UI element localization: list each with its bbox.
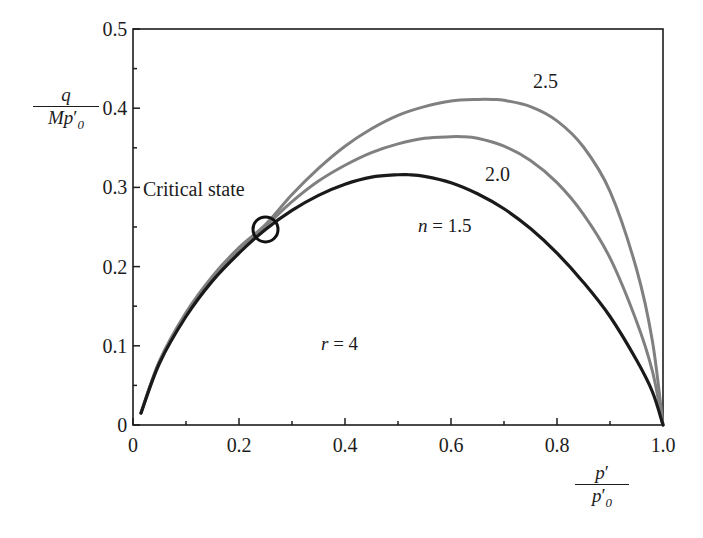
critical-state-label: Critical state	[143, 178, 245, 201]
axis-ticks	[133, 29, 663, 425]
y-axis-label: q Mp′0	[33, 85, 99, 131]
x-tick-label-1.0: 1.0	[651, 434, 675, 457]
x-tick-label-0: 0	[128, 434, 138, 457]
y-tick-label-0.3: 0.3	[85, 176, 127, 199]
y-tick-label-0.2: 0.2	[85, 255, 127, 278]
n-symbol: n	[418, 215, 428, 236]
x-tick-label-0.8: 0.8	[545, 434, 569, 457]
y-tick-label-0.5: 0.5	[85, 18, 127, 41]
curve-n-1.5	[141, 174, 663, 425]
x-tick-label-0.6: 0.6	[439, 434, 463, 457]
n-curve-label: n = 1.5	[418, 215, 471, 237]
x-numerator-base: p	[595, 462, 605, 483]
r-value: = 4	[328, 333, 358, 354]
x-numerator-prime: ′	[605, 462, 609, 483]
x-axis-label-numerator: p′	[575, 463, 629, 485]
y-denominator-subscript: 0	[78, 117, 84, 132]
y-denominator-prefix: Mp	[48, 107, 73, 128]
x-tick-label-0.4: 0.4	[333, 434, 357, 457]
y-axis-label-denominator: Mp′0	[33, 107, 99, 131]
curve-label-2-5: 2.5	[533, 70, 558, 93]
plot-frame	[133, 29, 663, 425]
chart-container: 0.5 0.4 0.3 0.2 0.1 0 0 0.2 0.4 0.6 0.8 …	[0, 0, 703, 538]
x-denominator-base: p	[592, 485, 602, 506]
y-axis-label-numerator: q	[33, 85, 99, 107]
r-annotation-label: r = 4	[321, 333, 358, 355]
x-axis-label: p′ p′0	[575, 463, 629, 509]
x-denominator-subscript: 0	[606, 495, 612, 510]
curve-label-2-0: 2.0	[485, 163, 510, 186]
curve-2.5	[141, 99, 663, 425]
n-value: = 1.5	[428, 215, 472, 236]
x-axis-label-denominator: p′0	[575, 485, 629, 509]
data-curves	[141, 99, 663, 425]
x-tick-label-0.2: 0.2	[227, 434, 251, 457]
y-tick-label-0: 0	[85, 414, 127, 437]
y-tick-label-0.1: 0.1	[85, 334, 127, 357]
